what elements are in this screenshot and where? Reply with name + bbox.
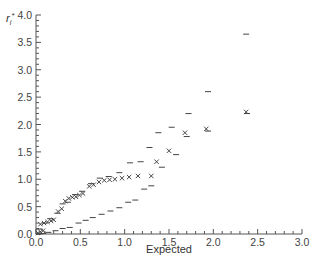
x-tick-label: 3.0 bbox=[295, 236, 310, 248]
x-tick-label: 2.0 bbox=[206, 236, 221, 248]
cross-marker bbox=[136, 174, 140, 178]
cross-marker bbox=[154, 160, 158, 164]
cross-marker bbox=[102, 178, 106, 182]
y-tick-label: 2.0 bbox=[17, 119, 32, 131]
y-axis: 0.00.51.01.52.02.53.03.54.0 bbox=[17, 9, 41, 240]
y-tick-label: 3.0 bbox=[17, 64, 32, 76]
x-axis-title: Expected bbox=[146, 243, 192, 255]
cross-marker bbox=[60, 207, 64, 211]
x-tick-label: 1.0 bbox=[117, 236, 132, 248]
cross-marker bbox=[127, 175, 131, 179]
y-tick-label: 2.5 bbox=[17, 91, 32, 103]
cross-marker bbox=[204, 127, 208, 131]
cross-marker bbox=[120, 176, 124, 180]
cross-marker bbox=[167, 149, 171, 153]
y-tick-label: 0.5 bbox=[17, 201, 32, 213]
cross-marker bbox=[183, 131, 187, 135]
y-tick-label: 3.5 bbox=[17, 36, 32, 48]
y-tick-label: 1.5 bbox=[17, 146, 32, 158]
cross-marker bbox=[149, 174, 153, 178]
y-tick-label: 4.0 bbox=[17, 9, 32, 21]
cross-marker bbox=[107, 178, 111, 182]
scatter-chart: 0.00.51.01.52.02.53.03.54.0 0.00.51.01.5… bbox=[0, 0, 316, 267]
cross-marker bbox=[87, 184, 91, 188]
y-tick-label: 1.0 bbox=[17, 173, 32, 185]
cross-marker bbox=[67, 196, 71, 200]
cross-marker bbox=[97, 180, 101, 184]
x-tick-label: 0.0 bbox=[29, 236, 44, 248]
plot-points bbox=[36, 34, 250, 235]
y-axis-title: ri* bbox=[6, 11, 15, 26]
x-tick-label: 0.5 bbox=[73, 236, 88, 248]
x-tick-label: 2.5 bbox=[250, 236, 265, 248]
cross-marker bbox=[113, 177, 117, 181]
